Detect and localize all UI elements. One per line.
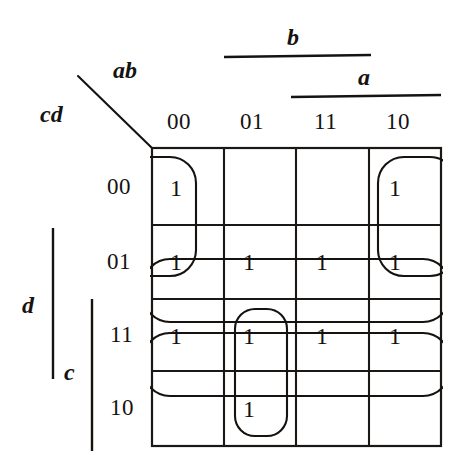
kmap-cell-r00-c10: 1 xyxy=(389,176,401,200)
kmap-cell-r10-c01: 1 xyxy=(243,397,255,421)
column-header-3: 10 xyxy=(386,110,410,133)
variable-label-b: b xyxy=(287,25,299,49)
variable-bar-b xyxy=(224,55,371,57)
kmap-cell-r11-c11: 1 xyxy=(316,324,328,348)
kmap-cell-r11-c10: 1 xyxy=(389,324,401,348)
variable-label-d: d xyxy=(22,293,34,317)
kmap-cell-r11-c00: 1 xyxy=(170,324,182,348)
row-header-3: 10 xyxy=(110,396,134,419)
kmap-cell-r11-c01: 1 xyxy=(243,324,255,348)
kmap-cell-r01-c01: 1 xyxy=(243,250,255,274)
kmap-cell-r01-c11: 1 xyxy=(316,250,328,274)
variable-label-c: c xyxy=(64,360,75,384)
columns-variable-label: ab xyxy=(113,58,137,82)
rows-variable-label: cd xyxy=(40,102,63,126)
column-header-0: 00 xyxy=(167,110,191,133)
kmap-cell-r01-c10: 1 xyxy=(389,250,401,274)
column-header-1: 01 xyxy=(240,110,264,133)
row-header-0: 00 xyxy=(107,175,131,198)
variable-label-a: a xyxy=(358,65,370,89)
row-header-2: 11 xyxy=(110,323,133,346)
kmap-cell-r01-c00: 1 xyxy=(170,250,182,274)
column-header-2: 11 xyxy=(314,110,337,133)
row-header-1: 01 xyxy=(107,250,131,273)
karnaugh-map-diagram: ab cd b a d c 00 01 11 10 00 01 11 10 1 … xyxy=(0,0,456,468)
axis-divider-diagonal xyxy=(78,76,152,148)
variable-bar-a xyxy=(291,95,441,97)
kmap-cell-r00-c00: 1 xyxy=(170,176,182,200)
kmap-vector-layer xyxy=(0,0,456,468)
